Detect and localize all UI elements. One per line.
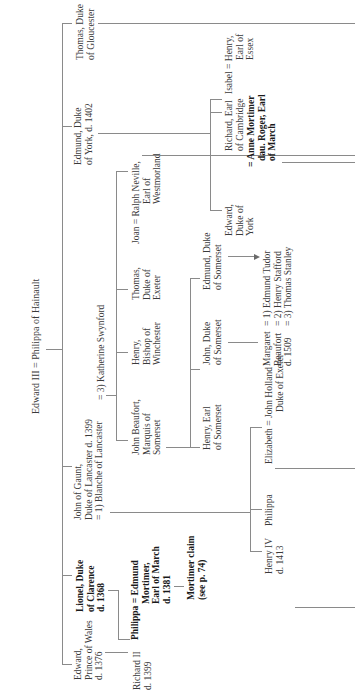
lionel-down (108, 590, 118, 591)
joan-ralph-neville: Joan = Ralph Neville, Earl of Westmorlan… (131, 154, 163, 244)
john-duke-of-somerset: John, Duke of Somerset (202, 319, 223, 365)
henry-bishop-of-winchester: Henry, Bishop of Winchester (131, 322, 163, 365)
edward-duke-of-york: Edward, Duke of York (224, 204, 256, 236)
drop-john-beaufort (116, 440, 128, 441)
edward-to-richard (105, 652, 128, 653)
henry-iv: Henry IV d. 1413 (264, 538, 285, 574)
lionel-across (118, 590, 119, 640)
elizabeth-john-holland: Elizabeth = John Holland Duke of Exeter (264, 354, 285, 464)
thomas-duke-of-gloucester: Thomas, Duke of Gloucester (75, 4, 96, 60)
mortimer-to-claim (174, 586, 184, 587)
drop-edward-york (210, 210, 222, 211)
genealogy-tree: Edward III = Philippa of Hainault Edward… (0, 0, 355, 699)
margaret-spouses: = 1) Edmund Tudor = 2) Henry Stafford = … (262, 247, 294, 326)
henry4-continue (295, 607, 355, 608)
thomas-duke-of-exeter: Thomas, Duke of Exeter (131, 267, 163, 300)
drop-edmund (62, 126, 72, 127)
drop-thomas (62, 23, 72, 24)
drop-lionel (62, 575, 72, 576)
anne-continue (282, 162, 355, 163)
beaufort-bar (116, 171, 117, 441)
drop-john-somerset (190, 369, 200, 370)
mortimer-claim: Mortimer claim (see p. 74) (186, 536, 207, 600)
drop-joan (116, 171, 128, 172)
title-stub (46, 349, 62, 350)
philippa-edmund-mortimer: Philippa = Edmund Mortimer, Earl of Marc… (130, 546, 172, 640)
gaunt-blanche-down (110, 512, 250, 513)
gen1-bar (62, 24, 63, 665)
drop-philippa (250, 509, 262, 510)
thomas-gloucester-continue (98, 23, 355, 24)
katherine-swynford: = 3) Katherine Swynford (96, 305, 107, 400)
drop-henry-somerset (190, 447, 200, 448)
john-beaufort: John Beaufort, Marquis of Somerset (131, 399, 163, 455)
edmund-duke-of-york: Edmund, Duke of York, d. 1402 (73, 103, 94, 165)
somerset-bar (190, 278, 191, 448)
beaufort-down (166, 447, 190, 448)
edward-prince-of-wales: Edward, Prince of Wales d. 1376 (73, 620, 105, 680)
john-somerset-down (228, 342, 258, 343)
drop-isabel (210, 99, 222, 100)
york-sibling-bar (210, 99, 211, 211)
henry4-bar (250, 427, 251, 552)
drop-edward (62, 664, 72, 665)
richard-ii: Richard II d. 1399 (132, 651, 153, 690)
holland-continue (275, 468, 355, 469)
drop-gaunt (62, 466, 72, 467)
edmund-york-down (98, 133, 210, 134)
drop-richard-cambridge (210, 112, 222, 113)
lionel-duke-of-clarence: Lionel, Duke of Clarence d. 1368 (75, 560, 107, 612)
drop-henry4 (250, 551, 262, 552)
margaret-beaufort: Margaret Beaufort d. 1509 (262, 331, 294, 366)
john-of-gaunt: John of Gaunt, Duke of Lancaster d. 1399… (73, 419, 105, 520)
drop-elizabeth (250, 427, 262, 428)
anne-mortimer: = Anne Mortimer dau. Roger, Earl of Marc… (246, 94, 278, 167)
lionel-to-philippa (118, 639, 130, 640)
drop-henry-bishop (116, 352, 128, 353)
henry-earl-of-somerset: Henry, Earl of Somerset (202, 404, 223, 450)
isabel-henry-earl-of-essex: Isabel = Henry, Earl of Essex (224, 34, 256, 94)
edmund-somerset-arrow-line (228, 256, 254, 257)
richard-earl-of-cambridge: Richard, Earl of Cambridge (224, 98, 245, 151)
drop-thomas-exeter (116, 289, 128, 290)
philippa-lancaster: Philippa (264, 494, 275, 526)
edward-iii-title: Edward III = Philippa of Hainault (31, 279, 42, 414)
arrow-icon (254, 254, 260, 260)
drop-edmund-somerset (190, 278, 200, 279)
katherine-down (106, 395, 116, 396)
edmund-duke-of-somerset: Edmund, Duke of Somerset (202, 232, 223, 290)
